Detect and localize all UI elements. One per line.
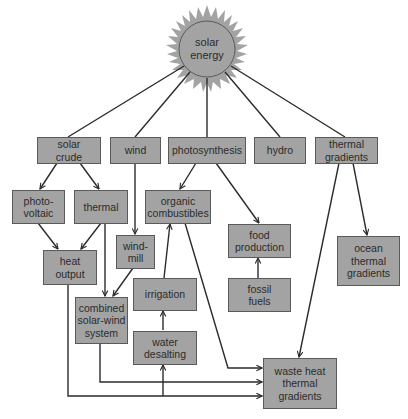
node-wind-label: wind xyxy=(125,144,147,157)
node-waste-heat-thermal-gradients-label: waste heat thermal gradients xyxy=(275,365,326,403)
node-irrigation-label: irrigation xyxy=(145,288,185,301)
solar-energy-label: solar energy xyxy=(180,36,234,62)
node-combined-solar-wind-system-label: combined solar-wind system xyxy=(78,302,126,340)
node-heat-output-label: heat output xyxy=(55,255,84,280)
node-fossil-fuels[interactable]: fossil fuels xyxy=(228,278,291,312)
node-organic-combustibles[interactable]: organic combustibles xyxy=(145,190,211,224)
node-ocean-thermal-gradients-label: ocean thermal gradients xyxy=(347,242,390,280)
node-combined-solar-wind-system[interactable]: combined solar-wind system xyxy=(75,297,128,344)
node-photosynthesis[interactable]: photosynthesis xyxy=(168,137,246,164)
node-thermal-label: thermal xyxy=(83,201,118,214)
connector-lines xyxy=(38,66,367,396)
node-ocean-thermal-gradients[interactable]: ocean thermal gradients xyxy=(337,236,400,286)
node-wind[interactable]: wind xyxy=(110,137,161,164)
node-water-desalting-label: water desalting xyxy=(144,336,186,361)
node-food-production[interactable]: food production xyxy=(228,224,291,258)
node-hydro-label: hydro xyxy=(267,144,293,157)
node-fossil-fuels-label: fossil fuels xyxy=(248,283,272,308)
node-photosynthesis-label: photosynthesis xyxy=(172,144,242,157)
node-hydro[interactable]: hydro xyxy=(254,137,306,164)
node-photovoltaic-label: photo- voltaic xyxy=(24,195,54,220)
node-thermal[interactable]: thermal xyxy=(74,190,128,224)
node-thermal-gradients-label: thermal gradients xyxy=(325,138,368,163)
node-solar-crude-label: solar crude xyxy=(56,138,82,163)
node-waste-heat-thermal-gradients[interactable]: waste heat thermal gradients xyxy=(263,358,337,409)
node-windmill[interactable]: wind- mill xyxy=(116,235,155,269)
node-solar-crude[interactable]: solar crude xyxy=(37,137,101,164)
node-windmill-label: wind- mill xyxy=(123,240,148,265)
node-water-desalting[interactable]: water desalting xyxy=(133,331,197,365)
node-heat-output[interactable]: heat output xyxy=(43,250,97,285)
node-irrigation[interactable]: irrigation xyxy=(133,278,197,311)
node-photovoltaic[interactable]: photo- voltaic xyxy=(12,190,65,224)
node-food-production-label: food production xyxy=(235,229,284,254)
node-organic-combustibles-label: organic combustibles xyxy=(147,195,208,220)
node-thermal-gradients[interactable]: thermal gradients xyxy=(315,137,378,164)
